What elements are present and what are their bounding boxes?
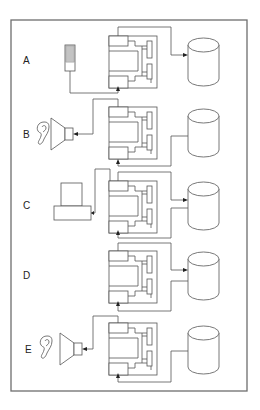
module-d (109, 251, 157, 303)
speaker-e-icon (60, 333, 82, 365)
row-label-a: A (23, 55, 30, 66)
row-label-b: B (23, 129, 30, 140)
system-diagram: A B C (0, 0, 260, 410)
module-c (109, 181, 157, 233)
ear-icon (40, 336, 52, 358)
ear-icon (37, 122, 49, 144)
row-b: B (23, 99, 219, 166)
database-e-icon (188, 326, 219, 374)
row-label-c: C (23, 200, 30, 211)
keypad-icon (65, 45, 75, 71)
database-c-icon (188, 182, 219, 230)
database-a-icon (188, 38, 219, 86)
row-label-d: D (23, 270, 30, 281)
row-a: A (23, 27, 219, 93)
module-e (109, 323, 157, 375)
database-b-icon (188, 109, 219, 157)
row-d: D (23, 243, 219, 311)
module-b (109, 107, 157, 159)
speaker-b-icon (51, 118, 73, 150)
module-a (109, 36, 157, 88)
database-d-icon (188, 252, 219, 300)
row-e: E (25, 316, 219, 382)
row-label-e: E (25, 344, 32, 355)
row-c: C (23, 169, 219, 238)
printer-terminal-icon (54, 183, 91, 220)
